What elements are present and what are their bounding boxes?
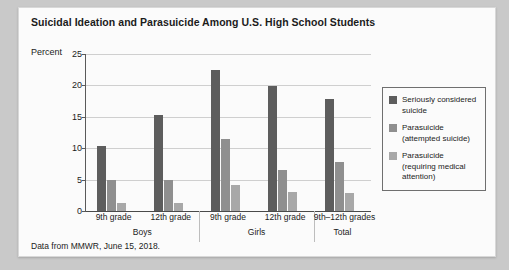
plot-area: 0510152025 bbox=[86, 54, 371, 211]
figure-root: Suicidal Ideation and Parasuicide Among … bbox=[0, 0, 509, 270]
source-note: Data from MMWR, June 15, 2018. bbox=[31, 241, 160, 251]
y-tick-mark bbox=[82, 180, 86, 181]
y-tick-label: 25 bbox=[72, 49, 82, 59]
category-axis: 9th grade12th gradeBoys9th grade12th gra… bbox=[85, 211, 371, 242]
bar bbox=[211, 70, 220, 211]
bar bbox=[288, 192, 297, 211]
bar bbox=[154, 115, 163, 211]
bar bbox=[335, 162, 344, 211]
bar bbox=[231, 185, 240, 211]
bar bbox=[107, 180, 116, 211]
y-tick-label: 5 bbox=[77, 175, 82, 185]
y-tick-mark bbox=[82, 117, 86, 118]
category-label: 9th–12th grades bbox=[314, 212, 371, 222]
bar bbox=[221, 139, 230, 211]
y-tick-label: 20 bbox=[72, 80, 82, 90]
group-label: Boys bbox=[85, 227, 199, 237]
gridline bbox=[86, 85, 371, 86]
legend-item: Parasuicide (attempted suicide) bbox=[389, 123, 479, 144]
bar bbox=[174, 203, 183, 211]
y-tick-mark bbox=[82, 54, 86, 55]
legend-item: Parasuicide (requiring medical attention… bbox=[389, 151, 479, 183]
bar bbox=[345, 193, 354, 211]
bar bbox=[97, 146, 106, 211]
y-tick-mark bbox=[82, 85, 86, 86]
bar bbox=[325, 99, 334, 211]
group-label: Total bbox=[314, 227, 371, 237]
category-label: 9th grade bbox=[199, 212, 256, 222]
bar bbox=[278, 170, 287, 211]
bar bbox=[117, 203, 126, 211]
category-label: 12th grade bbox=[257, 212, 314, 222]
legend-label: Parasuicide (requiring medical attention… bbox=[402, 151, 479, 183]
y-tick-label: 0 bbox=[77, 206, 82, 216]
y-tick-mark bbox=[82, 148, 86, 149]
legend-swatch-considered bbox=[389, 96, 397, 104]
gridline bbox=[86, 54, 371, 55]
category-label: 12th grade bbox=[142, 212, 199, 222]
figure-panel: Suicidal Ideation and Parasuicide Among … bbox=[18, 7, 496, 257]
y-tick-label: 15 bbox=[72, 112, 82, 122]
legend-label: Seriously considered suicide bbox=[402, 95, 479, 116]
bar bbox=[268, 86, 277, 211]
page-title: Suicidal Ideation and Parasuicide Among … bbox=[31, 16, 375, 28]
bar bbox=[164, 180, 173, 211]
legend-swatch-attempted bbox=[389, 124, 397, 132]
y-tick-label: 10 bbox=[72, 143, 82, 153]
y-axis-title: Percent bbox=[31, 47, 62, 57]
legend-label: Parasuicide (attempted suicide) bbox=[402, 123, 479, 144]
legend-swatch-medical bbox=[389, 152, 397, 160]
chart-legend: Seriously considered suicideParasuicide … bbox=[382, 87, 486, 191]
group-label: Girls bbox=[199, 227, 313, 237]
y-axis-line bbox=[85, 54, 86, 211]
category-label: 9th grade bbox=[85, 212, 142, 222]
legend-item: Seriously considered suicide bbox=[389, 95, 479, 116]
